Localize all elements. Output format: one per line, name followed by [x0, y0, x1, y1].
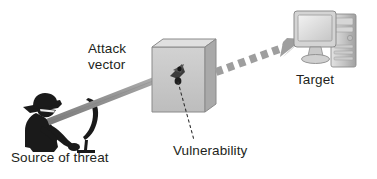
- label-attack-vector: Attack vector: [88, 41, 126, 73]
- breach-arrow: [216, 38, 303, 72]
- wall-block-icon: [152, 39, 216, 112]
- label-source-of-threat: Source of threat: [11, 150, 109, 166]
- hacker-silhouette-icon: [23, 93, 98, 153]
- security-attack-diagram: Attack vector Target Source of threat Vu…: [0, 0, 377, 179]
- label-target: Target: [296, 72, 334, 88]
- desktop-computer-icon: [294, 11, 356, 67]
- label-vulnerability: Vulnerability: [173, 143, 247, 159]
